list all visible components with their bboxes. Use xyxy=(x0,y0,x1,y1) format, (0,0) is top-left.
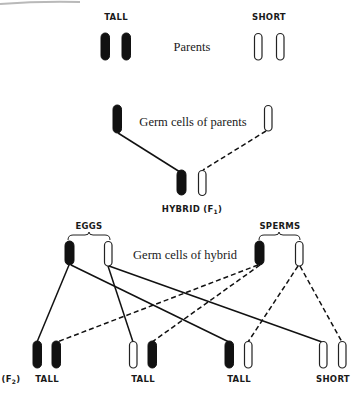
parent-short-chromosome-1 xyxy=(255,34,263,61)
parent-short-chromosome-2 xyxy=(277,34,285,61)
f2-g2-label: TALL xyxy=(131,374,155,384)
hybrid-label: HYBRID (F1) xyxy=(162,204,223,215)
f2-g4-chromosome-2 xyxy=(339,342,347,369)
f2-generation-label: (F2) xyxy=(2,374,21,385)
eggs-label: EGGS xyxy=(75,221,102,231)
mendel-cross-diagram: TALL SHORT Parents Germ cells of parents… xyxy=(0,0,361,395)
line-short-to-hybrid xyxy=(203,131,266,170)
f2-g3-chromosome-1 xyxy=(225,341,234,368)
f2-g2-chromosome-1 xyxy=(130,342,138,369)
hybrid-dominant-chromosome xyxy=(177,170,186,195)
sperm-recessive-chromosome xyxy=(296,242,304,267)
sperm-dominant-chromosome xyxy=(255,241,264,265)
line-egg-rec-to-f2-g2 xyxy=(108,266,133,342)
line-egg-rec-to-f2-g4 xyxy=(109,266,322,342)
eggs-brace xyxy=(68,232,110,240)
germ-cell-short-chromosome xyxy=(265,106,273,132)
germ-cells-hybrid-label: Germ cells of hybrid xyxy=(133,248,238,262)
f2-g3-label: TALL xyxy=(227,374,251,384)
egg-dominant-chromosome xyxy=(65,241,74,265)
line-egg-dom-to-f2-g1 xyxy=(37,265,69,342)
f2-g1-chromosome-2 xyxy=(52,341,61,368)
f2-g1-chromosome-1 xyxy=(33,341,42,368)
f2-g2-chromosome-2 xyxy=(148,341,157,368)
f2-g4-label: SHORT xyxy=(316,374,350,384)
sperms-label: SPERMS xyxy=(259,221,300,231)
line-tall-to-hybrid xyxy=(118,133,180,172)
egg-recessive-chromosome xyxy=(105,242,113,267)
parent-tall-chromosome-1 xyxy=(101,33,110,60)
parent-short-label: SHORT xyxy=(252,12,286,22)
hybrid-recessive-chromosome xyxy=(199,171,207,196)
f2-g3-chromosome-2 xyxy=(245,342,253,369)
sperms-brace xyxy=(259,232,300,240)
germ-cell-tall-chromosome xyxy=(113,105,122,133)
line-sperm-dom-to-f2-g1 xyxy=(57,265,258,342)
parent-tall-label: TALL xyxy=(104,12,128,22)
scan-edge xyxy=(0,2,80,4)
parents-label: Parents xyxy=(174,40,211,54)
parent-tall-chromosome-2 xyxy=(122,33,131,60)
f2-g4-chromosome-1 xyxy=(320,342,328,369)
germ-cells-parents-label: Germ cells of parents xyxy=(139,115,246,129)
f2-g1-label: TALL xyxy=(35,374,59,384)
line-sperm-rec-to-f2-g4 xyxy=(300,266,342,342)
